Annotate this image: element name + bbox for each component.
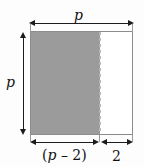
- dashed-divider-line: [99, 32, 101, 134]
- top-dimension-label: p: [74, 8, 83, 22]
- bottom-extension-tick-middle: [99, 135, 100, 142]
- bottom-extension-tick-left: [30, 135, 31, 142]
- left-dimension-arrowhead-up-icon: [20, 32, 26, 38]
- bottom-label-close-paren: ): [81, 147, 86, 163]
- top-dimension-line: [34, 23, 130, 24]
- top-extension-tick-left: [30, 24, 31, 32]
- left-dimension-arrowhead-down-icon: [20, 129, 26, 135]
- bottom-left-dimension-line: [35, 142, 95, 143]
- bottom-extension-tick-right: [132, 135, 133, 142]
- unshaded-strip-region: [100, 32, 132, 134]
- bottom-label-number: 2: [72, 147, 81, 163]
- bottom-left-dimension-label: (p – 2): [42, 148, 87, 162]
- bottom-right-dimension-arrowhead-left-icon: [101, 139, 107, 145]
- left-dimension-label: p: [6, 75, 15, 89]
- top-dimension-arrowhead-right-icon: [128, 20, 134, 26]
- top-extension-tick-right: [132, 24, 133, 32]
- bottom-label-minus-sign: –: [56, 147, 72, 163]
- left-dimension-line: [23, 38, 24, 130]
- geometry-figure: p p (p – 2) 2: [0, 0, 144, 167]
- shaded-rectangle-region: [31, 32, 100, 134]
- bottom-right-dimension-line: [106, 142, 129, 143]
- bottom-right-dimension-label: 2: [112, 149, 121, 163]
